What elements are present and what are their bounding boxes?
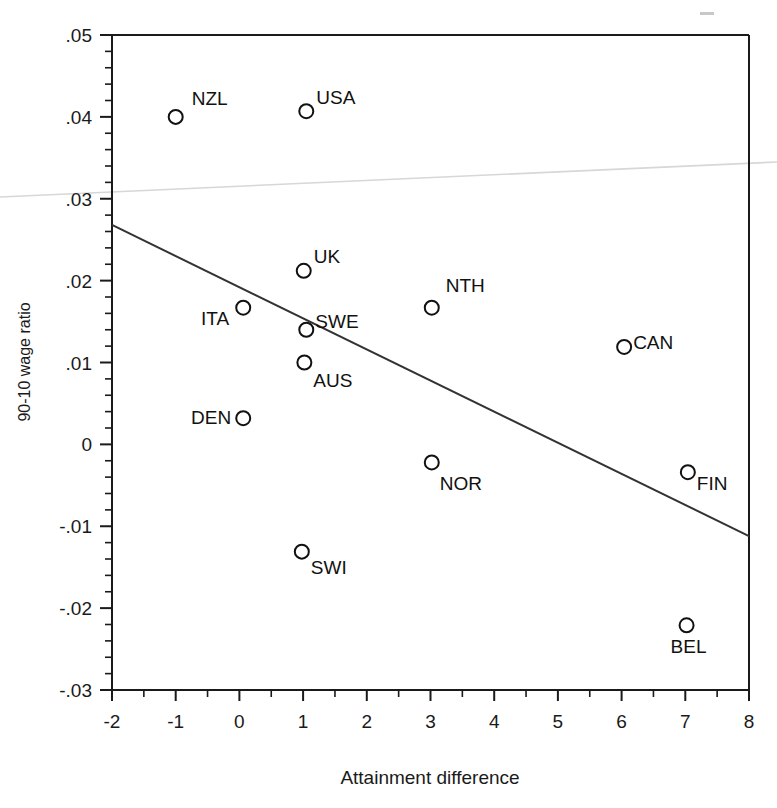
point-label: BEL (671, 636, 707, 657)
point-label: SWI (311, 557, 347, 578)
x-axis-title: Attainment difference (340, 767, 519, 788)
y-tick-label: -.01 (59, 516, 92, 537)
y-tick-label: .02 (66, 271, 92, 292)
point-label: SWE (315, 311, 358, 332)
point-label: FIN (697, 473, 728, 494)
x-tick-label: 3 (425, 711, 436, 732)
point-label: NZL (192, 88, 228, 109)
y-tick-label: 0 (81, 434, 92, 455)
y-tick-label: -.03 (59, 680, 92, 701)
x-tick-label: 4 (489, 711, 500, 732)
plot-canvas: .05.04.03.02.010-.01-.02-.03-2-101234567… (0, 0, 777, 808)
y-axis-title: 90-10 wage ratio (16, 302, 33, 421)
scan-speck (700, 12, 714, 15)
x-tick-label: 7 (680, 711, 691, 732)
x-tick-label: 5 (553, 711, 564, 732)
point-label: CAN (633, 332, 673, 353)
point-label: AUS (313, 370, 352, 391)
x-tick-label: 0 (234, 711, 245, 732)
y-tick-label: .05 (66, 25, 92, 46)
x-tick-label: 8 (744, 711, 755, 732)
y-tick-label: .03 (66, 189, 92, 210)
y-tick-label: .01 (66, 353, 92, 374)
point-label: USA (316, 87, 355, 108)
x-tick-label: 2 (362, 711, 373, 732)
point-label: ITA (201, 308, 229, 329)
point-label: UK (314, 246, 341, 267)
x-tick-label: 6 (616, 711, 627, 732)
point-label: NOR (440, 473, 482, 494)
point-label: DEN (191, 407, 231, 428)
y-tick-label: .04 (66, 107, 93, 128)
x-tick-label: 1 (298, 711, 309, 732)
x-tick-label: -1 (167, 711, 184, 732)
point-label: NTH (446, 275, 485, 296)
figure-background (0, 0, 777, 808)
y-tick-label: -.02 (59, 598, 92, 619)
scatter-plot-figure: .05.04.03.02.010-.01-.02-.03-2-101234567… (0, 0, 777, 808)
x-tick-label: -2 (104, 711, 121, 732)
